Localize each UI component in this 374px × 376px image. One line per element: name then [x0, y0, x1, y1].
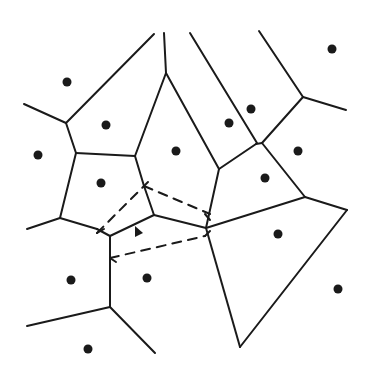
tick-mark — [144, 182, 148, 186]
voronoi-edge — [60, 153, 76, 218]
site-point — [34, 151, 43, 160]
voronoi-edge — [259, 31, 303, 97]
tick-marks — [97, 182, 210, 262]
voronoi-edge — [135, 73, 166, 156]
diagram-svg — [0, 0, 374, 376]
site-point — [97, 179, 106, 188]
voronoi-edge — [206, 197, 305, 228]
voronoi-edge — [206, 169, 219, 228]
voronoi-edge — [305, 197, 347, 210]
site-point — [172, 147, 181, 156]
voronoi-edge — [110, 307, 155, 353]
voronoi-edge — [240, 210, 347, 347]
voronoi-edge — [206, 228, 240, 347]
site-point — [84, 345, 93, 354]
delaunay-dashed-edges — [97, 186, 210, 258]
voronoi-edge — [76, 153, 135, 156]
voronoi-edge — [24, 104, 66, 123]
triangle-marker-icon — [135, 226, 143, 237]
voronoi-edge — [303, 97, 346, 110]
voronoi-edges — [24, 31, 347, 353]
dashed-edge — [97, 186, 144, 233]
dashed-edge — [144, 186, 210, 214]
voronoi-edge — [110, 215, 154, 236]
site-point — [102, 121, 111, 130]
voronoi-edge — [164, 33, 166, 73]
voronoi-edge — [27, 218, 60, 229]
voronoi-edge — [27, 307, 110, 326]
voronoi-edge — [66, 123, 76, 153]
site-point — [225, 119, 234, 128]
triangle-icon — [135, 226, 143, 237]
voronoi-edge — [154, 215, 206, 228]
voronoi-edge — [262, 97, 303, 143]
site-point — [294, 147, 303, 156]
site-point — [143, 274, 152, 283]
voronoi-edge — [60, 218, 97, 229]
voronoi-edge — [135, 156, 144, 186]
site-point — [67, 276, 76, 285]
site-point — [334, 285, 343, 294]
site-point — [274, 230, 283, 239]
site-point — [328, 45, 337, 54]
site-point — [63, 78, 72, 87]
voronoi-edge — [190, 33, 257, 143]
voronoi-edge — [66, 34, 154, 123]
site-point — [261, 174, 270, 183]
voronoi-diagram — [0, 0, 374, 376]
dashed-edge — [110, 236, 205, 258]
site-point — [247, 105, 256, 114]
voronoi-edge — [219, 144, 256, 169]
